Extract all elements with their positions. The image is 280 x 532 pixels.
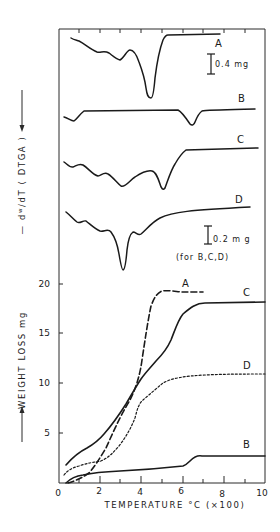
weight-label-a: A (182, 278, 189, 289)
dtga-axis-title-group: — dʷ/dT ( DTGA ) (17, 90, 27, 234)
y-tick-10: 10 (39, 378, 51, 388)
dtga-curve-b (64, 109, 255, 125)
scale-bar-bcd-label: 0.2 m g (213, 235, 251, 244)
dtga-axis-title: — dʷ/dT ( DTGA ) (17, 136, 27, 235)
weight-curve-c (66, 302, 265, 465)
scale-bar-a (207, 54, 215, 74)
weight-axis-title: WEIGHT LOSS mg (17, 311, 27, 409)
x-tick-6: 6 (178, 486, 184, 496)
weight-label-c: C (243, 287, 250, 298)
x-tick-10: 10 (256, 488, 268, 498)
dtga-label-a: A (215, 38, 222, 49)
y-tick-labels: 20 15 10 5 (39, 279, 51, 438)
dtga-label-d: D (235, 194, 243, 205)
scale-bar-a-label: 0.4 mg (215, 60, 249, 69)
y-tick-15: 15 (39, 328, 50, 338)
dtga-curve-a (71, 34, 220, 98)
arrowhead-down-icon (20, 125, 25, 132)
weight-label-d: D (243, 360, 251, 371)
dtga-curve-c (64, 148, 258, 189)
x-tick-2: 2 (96, 486, 102, 496)
weight-curve-d (64, 374, 265, 475)
y-tick-20: 20 (39, 279, 51, 289)
y-tick-5: 5 (44, 428, 50, 438)
scale-bar-bcd (204, 226, 212, 244)
x-axis-title: TEMPERATURE °C (×100) (104, 500, 246, 510)
weight-axis-title-group: WEIGHT LOSS mg (17, 311, 27, 442)
weight-label-b: B (243, 439, 250, 450)
scale-bar-bcd-note: (for B,C,D) (176, 253, 229, 262)
dtga-label-b: B (238, 93, 245, 104)
y-axis-ticks (59, 284, 63, 433)
weight-curve-b (66, 456, 265, 483)
x-tick-0: 0 (55, 488, 61, 498)
dtga-label-c: C (237, 134, 244, 145)
top-axis-ticks (79, 29, 245, 33)
x-axis-ticks (79, 476, 245, 483)
figure-canvas: 0 2 4 6 8 10 20 15 10 5 TEMPERATURE °C (… (0, 0, 280, 532)
plot-frame (59, 29, 265, 483)
x-tick-labels: 0 2 4 6 8 10 (55, 486, 268, 499)
x-tick-8: 8 (219, 489, 225, 499)
x-tick-4: 4 (137, 487, 143, 497)
